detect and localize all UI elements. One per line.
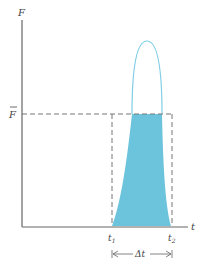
average-force-label: F bbox=[8, 109, 17, 120]
x-axis-label: t bbox=[191, 221, 196, 232]
force-curve bbox=[132, 41, 162, 114]
y-axis-label: F bbox=[17, 7, 26, 18]
t1-label: t1 bbox=[108, 233, 115, 244]
interval-label: Δt bbox=[134, 249, 145, 259]
impulse-area bbox=[112, 114, 171, 226]
t2-label: t2 bbox=[168, 233, 176, 244]
impulse-diagram: F t F t1 t2 Δt bbox=[0, 0, 205, 265]
